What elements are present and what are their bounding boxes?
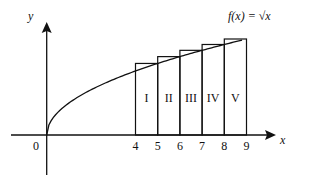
x-tick-label: 9	[244, 139, 250, 154]
rectangle-label: III	[185, 91, 197, 106]
rectangle-v	[224, 39, 246, 135]
rectangle-label: IV	[207, 91, 220, 106]
origin-label: 0	[33, 139, 39, 154]
x-tick-label: 6	[177, 139, 183, 154]
sqrt-curve	[47, 40, 242, 135]
rectangle-label: V	[231, 91, 240, 106]
rectangle-label: I	[145, 91, 149, 106]
function-label: f(x) = √x	[228, 9, 271, 24]
x-tick-label: 4	[133, 139, 139, 154]
rectangle-label: II	[165, 91, 173, 106]
x-axis-label: x	[280, 133, 285, 148]
rectangle-iv	[202, 44, 224, 135]
x-tick-label: 5	[155, 139, 161, 154]
x-tick-label: 7	[199, 139, 205, 154]
x-tick-label: 8	[221, 139, 227, 154]
y-axis-label: y	[28, 9, 33, 24]
